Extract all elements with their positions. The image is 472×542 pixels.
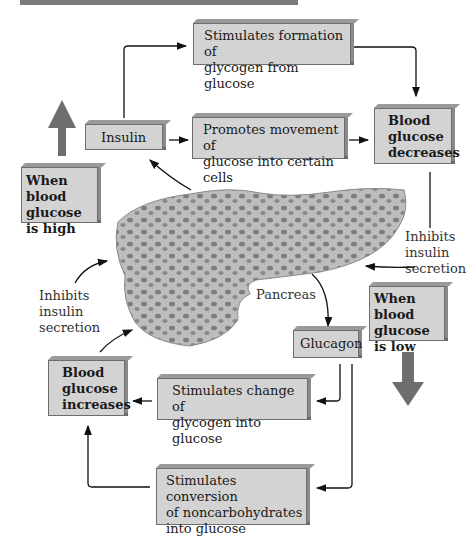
box-when-glucose-low: When blood glucose is low xyxy=(369,286,445,341)
label-inhibits-insulin-left: Inhibits insulin secretion xyxy=(39,288,100,336)
box-blood-glucose-increases: Blood glucose increases xyxy=(48,360,125,416)
label-pancreas: Pancreas xyxy=(256,287,316,303)
box-stimulates-glycogen-change: Stimulates change of glycogen into gluco… xyxy=(157,378,308,420)
box-stimulates-glycogen-formation: Stimulates formation of glycogen from gl… xyxy=(193,23,351,65)
box-blood-glucose-decreases: Blood glucose decreases xyxy=(374,108,452,164)
box-when-glucose-high: When blood glucose is high xyxy=(21,167,98,223)
box-insulin: Insulin xyxy=(85,124,163,150)
label-inhibits-insulin-right: Inhibits insulin secretion xyxy=(405,229,466,277)
box-stimulates-conversion: Stimulates conversion of noncarbohydrate… xyxy=(156,468,307,525)
box-promotes-movement: Promotes movement of glucose into certai… xyxy=(192,117,345,159)
box-glucagon: Glucagon xyxy=(293,330,359,358)
